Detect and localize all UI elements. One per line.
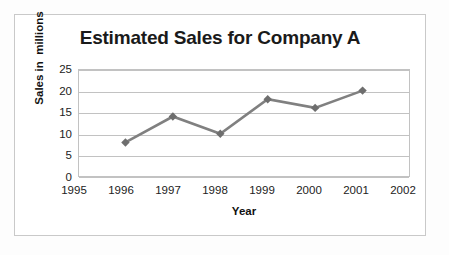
gridline xyxy=(79,113,409,114)
plot-area xyxy=(78,69,410,177)
gridline xyxy=(79,177,409,178)
y-axis-tick-labels: 25 20 15 10 5 0 xyxy=(32,69,72,177)
y-tick-label: 10 xyxy=(36,128,72,140)
y-tick-label: 20 xyxy=(36,85,72,97)
x-axis-title: Year xyxy=(78,205,410,217)
y-tick-label: 15 xyxy=(36,106,72,118)
chart-screenshot: Estimated Sales for Company A Sales in m… xyxy=(0,0,449,255)
y-tick-label: 0 xyxy=(36,171,72,183)
chart-title: Estimated Sales for Company A xyxy=(14,27,426,49)
y-tick-label: 25 xyxy=(36,63,72,75)
gridline xyxy=(79,156,409,157)
x-tick-label: 2002 xyxy=(373,184,433,196)
gridline xyxy=(79,135,409,136)
gridline xyxy=(79,92,409,93)
x-axis-tick-labels: 1995 1996 1997 1998 1999 2000 2001 2002 xyxy=(0,184,449,200)
y-tick-label: 5 xyxy=(36,149,72,161)
gridline xyxy=(79,70,409,71)
